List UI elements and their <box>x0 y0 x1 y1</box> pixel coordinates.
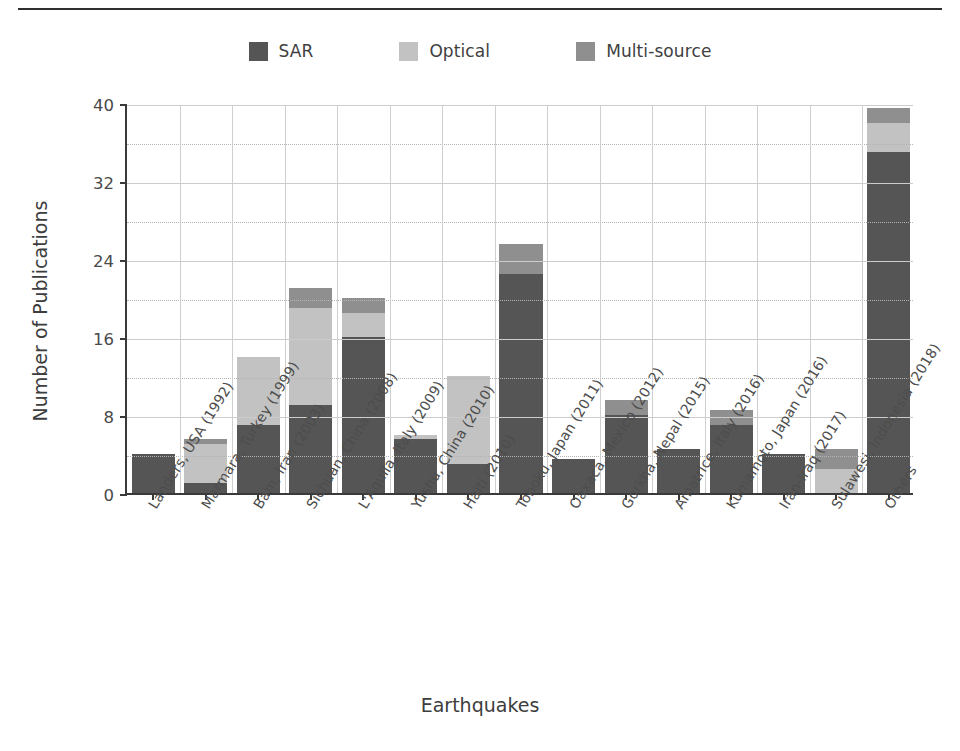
gridline-vertical <box>862 105 863 493</box>
gridline-minor <box>127 300 913 301</box>
y-tick-mark <box>120 104 127 106</box>
gridline-major <box>127 183 913 184</box>
gridline-minor <box>127 378 913 379</box>
y-axis-title: Number of Publications <box>29 81 51 541</box>
y-tick-label: 16 <box>93 330 114 349</box>
y-tick-mark <box>120 260 127 262</box>
gridline-vertical <box>652 105 653 493</box>
bar-segment-multi-source <box>499 244 542 273</box>
gridline-major <box>127 105 913 106</box>
bar-segment-optical <box>867 123 910 152</box>
gridline-vertical <box>285 105 286 493</box>
gridline-major <box>127 261 913 262</box>
legend-swatch-icon <box>249 42 268 61</box>
y-tick-label: 0 <box>104 486 115 505</box>
legend-item-sar[interactable]: SAR <box>249 41 314 61</box>
bar-3[interactable] <box>289 288 332 493</box>
y-tick-mark <box>120 182 127 184</box>
bar-segment-sar <box>499 274 542 493</box>
gridline-vertical <box>495 105 496 493</box>
gridline-vertical <box>442 105 443 493</box>
bar-segment-multi-source <box>289 288 332 308</box>
y-tick-mark <box>120 494 127 496</box>
y-tick-label: 40 <box>93 96 114 115</box>
gridline-vertical <box>705 105 706 493</box>
y-tick-label: 8 <box>104 408 115 427</box>
legend-swatch-icon <box>576 42 595 61</box>
legend-label: Multi-source <box>606 41 711 61</box>
gridline-vertical <box>180 105 181 493</box>
y-tick-label: 24 <box>93 252 114 271</box>
chart-legend: SAROpticalMulti-source <box>0 38 960 64</box>
bar-segment-multi-source <box>867 108 910 123</box>
gridline-minor <box>127 222 913 223</box>
gridline-vertical <box>810 105 811 493</box>
legend-label: Optical <box>429 41 490 61</box>
gridline-vertical <box>757 105 758 493</box>
legend-item-optical[interactable]: Optical <box>399 41 490 61</box>
bar-segment-optical <box>342 313 385 337</box>
legend-label: SAR <box>279 41 314 61</box>
figure: SAROpticalMulti-source 0816243240 Lander… <box>0 0 960 751</box>
gridline-vertical <box>600 105 601 493</box>
y-tick-mark <box>120 416 127 418</box>
gridline-vertical <box>390 105 391 493</box>
gridline-major <box>127 339 913 340</box>
y-tick-label: 32 <box>93 174 114 193</box>
gridline-vertical <box>337 105 338 493</box>
top-divider <box>18 8 942 10</box>
legend-swatch-icon <box>399 42 418 61</box>
y-tick-mark <box>120 338 127 340</box>
gridline-minor <box>127 144 913 145</box>
gridline-vertical <box>232 105 233 493</box>
gridline-vertical <box>547 105 548 493</box>
legend-item-multi-source[interactable]: Multi-source <box>576 41 711 61</box>
x-axis-title: Earthquakes <box>0 694 960 716</box>
bar-segment-optical <box>289 308 332 406</box>
